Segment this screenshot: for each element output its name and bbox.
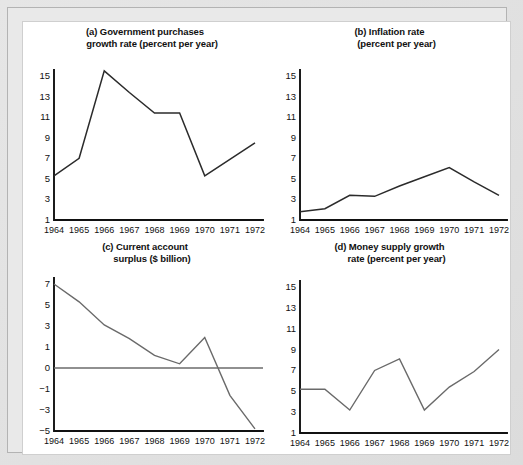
page-background: (a) Government purchases growth rate (pe… <box>0 0 523 465</box>
panel-a-plot: 1357911131519641965196619671968196919701… <box>23 26 267 241</box>
panel-b-axis-line <box>300 70 507 220</box>
panel-a-ytick-15: 15 <box>28 71 50 81</box>
panel-d-ytick-3: 3 <box>274 407 296 417</box>
panel-d-ytick-15: 15 <box>274 282 296 292</box>
panel-b-ytick-11: 11 <box>274 112 296 122</box>
panel-b-ytick-1: 1 <box>274 215 296 225</box>
panel-d-plot: 1357911131519641965196619671968196919701… <box>269 241 510 454</box>
panel-d-axis-line <box>300 281 507 433</box>
panel-a-axes-svg <box>23 26 267 241</box>
panel-c-ytick-1: 1 <box>28 342 50 352</box>
panel-a-xtick-1972: 1972 <box>240 226 270 235</box>
panel-c-data-line <box>54 284 255 429</box>
panel-c-current-account: (c) Current account surplus ($ billion) … <box>23 241 267 454</box>
panel-d-ytick-1: 1 <box>274 428 296 438</box>
panel-a-ytick-13: 13 <box>28 92 50 102</box>
panel-a-data-line <box>54 71 255 176</box>
panel-b-plot: 1357911131519641965196619671968196919701… <box>269 26 510 241</box>
panel-d-ytick-11: 11 <box>274 324 296 334</box>
panel-a-ytick-5: 5 <box>28 174 50 184</box>
panel-d-ytick-13: 13 <box>274 303 296 313</box>
panel-b-inflation-rate: (b) Inflation rate (percent per year) 13… <box>269 26 510 241</box>
panel-d-data-line <box>300 350 499 410</box>
panel-b-ytick-13: 13 <box>274 92 296 102</box>
panel-c-axes-svg <box>23 241 267 454</box>
panel-a-axis-line <box>54 70 263 220</box>
panel-d-ytick-9: 9 <box>274 345 296 355</box>
panel-c-ytick-minus5: −5 <box>28 426 50 436</box>
panel-b-ytick-7: 7 <box>274 153 296 163</box>
panel-b-xtick-1972: 1972 <box>484 226 514 235</box>
panel-a-ytick-3: 3 <box>28 194 50 204</box>
panel-d-axes-svg <box>269 241 510 454</box>
panel-a-ytick-11: 11 <box>28 112 50 122</box>
panel-a-ytick-7: 7 <box>28 153 50 163</box>
panel-b-axes-svg <box>269 26 510 241</box>
panel-c-plot: 75310−1−3−519641965196619671968196919701… <box>23 241 267 454</box>
panel-d-ytick-5: 5 <box>274 386 296 396</box>
panel-c-axis-line <box>54 278 263 431</box>
panel-b-ytick-3: 3 <box>274 194 296 204</box>
panel-c-ytick-minus3: −3 <box>28 405 50 415</box>
figure-frame: (a) Government purchases growth rate (pe… <box>7 7 507 453</box>
panel-a-government-purchases: (a) Government purchases growth rate (pe… <box>23 26 267 241</box>
panel-c-ytick-7: 7 <box>28 279 50 289</box>
panel-b-ytick-15: 15 <box>274 71 296 81</box>
panel-b-ytick-5: 5 <box>274 174 296 184</box>
panel-c-ytick-3: 3 <box>28 321 50 331</box>
panel-a-ytick-1: 1 <box>28 215 50 225</box>
panel-c-xtick-1972: 1972 <box>240 437 270 446</box>
panel-a-ytick-9: 9 <box>28 133 50 143</box>
panel-d-xtick-1972: 1972 <box>484 439 514 448</box>
panel-c-ytick-0: 0 <box>28 363 50 373</box>
panel-c-ytick-minus1: −1 <box>28 384 50 394</box>
panel-d-money-supply: (d) Money supply growth rate (percent pe… <box>269 241 510 454</box>
panel-d-ytick-7: 7 <box>274 365 296 375</box>
panel-b-data-line <box>300 168 499 212</box>
figure-sheet: (a) Government purchases growth rate (pe… <box>22 21 511 455</box>
panel-b-ytick-9: 9 <box>274 133 296 143</box>
panel-c-ytick-5: 5 <box>28 300 50 310</box>
